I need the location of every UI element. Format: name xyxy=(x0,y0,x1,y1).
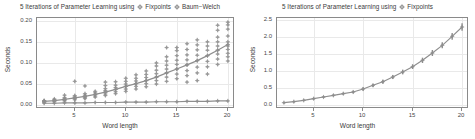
xaxis-label-right: Word length xyxy=(240,122,475,129)
xtick-label: 10 xyxy=(352,112,372,118)
series-layer-right xyxy=(277,18,468,108)
series-layer-left xyxy=(37,18,234,108)
ytick-label: 0.0 xyxy=(246,101,272,107)
yaxis-label-left: Seconds xyxy=(4,37,11,83)
xtick-label: 5 xyxy=(64,112,84,118)
xtick-mark xyxy=(176,108,177,111)
circle-plus-marker-icon xyxy=(174,4,180,10)
xtick-mark xyxy=(362,108,363,111)
chart-panel-left: 5 Iterations of Parameter Learning using… xyxy=(0,0,240,139)
ytick-label: 0.00 xyxy=(2,101,32,107)
xtick-mark xyxy=(125,108,126,111)
xtick-label: 20 xyxy=(451,112,471,118)
xtick-label: 5 xyxy=(303,112,323,118)
xaxis-label-left: Word length xyxy=(0,122,240,129)
ytick-label: 0.20 xyxy=(2,17,32,23)
yaxis-label-right: Seconds xyxy=(249,37,256,83)
chart-title-right: 5 Iterations of Parameter Learning using… xyxy=(240,3,475,11)
chart-panel-right: 5 Iterations of Parameter Learning using… xyxy=(240,0,475,139)
legend-right: Fixpoints xyxy=(396,3,433,11)
xtick-mark xyxy=(227,108,228,111)
legend-left: FixpointsBaum−Welch xyxy=(134,3,220,11)
legend-label-baum-welch: Baum−Welch xyxy=(182,3,220,10)
chart-title-text-left: 5 Iterations of Parameter Learning using xyxy=(20,3,134,10)
ytick-label: 2.5 xyxy=(246,16,272,22)
circle-plus-marker-icon xyxy=(399,4,405,10)
xtick-mark xyxy=(412,108,413,111)
xtick-label: 15 xyxy=(166,112,186,118)
ytick-label: 0.5 xyxy=(246,84,272,90)
xtick-label: 20 xyxy=(217,112,237,118)
plot-area-left xyxy=(36,17,234,108)
legend-label-fixpoints: Fixpoints xyxy=(145,3,171,10)
figure-container: 5 Iterations of Parameter Learning using… xyxy=(0,0,475,139)
circle-plus-marker-icon xyxy=(137,4,143,10)
xtick-mark xyxy=(461,108,462,111)
xtick-mark xyxy=(74,108,75,111)
legend-label-fixpoints: Fixpoints xyxy=(407,3,433,10)
xtick-mark xyxy=(313,108,314,111)
chart-title-left: 5 Iterations of Parameter Learning using… xyxy=(0,3,240,11)
plot-area-right xyxy=(276,17,468,108)
xtick-label: 15 xyxy=(402,112,422,118)
xtick-label: 10 xyxy=(115,112,135,118)
chart-title-text-right: 5 Iterations of Parameter Learning using xyxy=(282,3,396,10)
